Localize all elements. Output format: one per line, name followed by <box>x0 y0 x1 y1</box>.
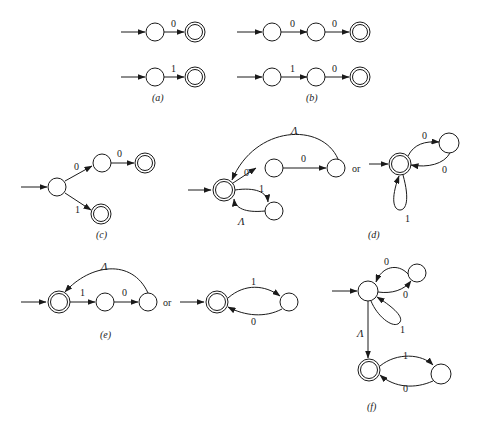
or-separator: or <box>352 163 361 174</box>
edge-label: 0 <box>117 148 122 159</box>
lambda-arrow <box>234 199 265 211</box>
self-loop <box>394 175 407 210</box>
edge-label: 1 <box>259 183 264 194</box>
transition-arrow <box>376 267 408 282</box>
edge-label: 0 <box>122 287 127 298</box>
edge-label: Λ <box>356 327 364 339</box>
edge-label: 1 <box>290 63 295 74</box>
edge-label: 0 <box>301 153 306 164</box>
caption-e: (e) <box>100 329 112 341</box>
edge-label: 0 <box>332 63 337 74</box>
edge-label: 1 <box>405 213 410 224</box>
state <box>265 159 283 177</box>
edge-label: 0 <box>422 130 427 141</box>
accept-state-inner <box>94 207 109 222</box>
state <box>263 68 281 86</box>
edge-label: 1 <box>171 63 176 74</box>
caption-c: (c) <box>96 229 108 241</box>
edge-label: 0 <box>332 18 337 29</box>
caption-b: (b) <box>306 92 318 104</box>
part-e-left: 1 0 Λ or (e) <box>21 260 172 341</box>
edge-label: Λ <box>100 260 108 272</box>
lambda-arc <box>65 269 148 293</box>
state <box>265 202 283 220</box>
edge-label: 0 <box>171 18 176 29</box>
edge-label: 0 <box>74 161 79 172</box>
accept-state-inner <box>51 294 68 311</box>
state <box>358 281 378 301</box>
edge-label: 0 <box>442 164 447 175</box>
automata-figure: 0 1 (a) 0 0 1 0 (b) 0 <box>0 0 491 423</box>
transition-arrow <box>228 307 282 315</box>
state <box>93 154 111 172</box>
accept-state-inner <box>353 70 368 85</box>
self-loop <box>371 297 401 325</box>
caption-f: (f) <box>367 401 377 413</box>
part-a: 0 1 (a) <box>121 18 205 104</box>
accept-state-inner <box>188 25 203 40</box>
caption-a: (a) <box>152 92 164 104</box>
part-c: 0 0 1 (c) <box>21 148 155 241</box>
accept-state-inner <box>188 70 203 85</box>
accept-state-inner <box>361 362 378 379</box>
accept-state-inner <box>392 156 409 173</box>
state <box>280 293 298 311</box>
edge-label: 1 <box>75 204 80 215</box>
edge-label: Λ <box>290 124 298 136</box>
state <box>146 68 164 86</box>
state <box>48 178 66 196</box>
edge-label: 0 <box>384 256 389 267</box>
state <box>263 23 281 41</box>
state <box>307 68 325 86</box>
state <box>439 133 459 153</box>
edge-label: Λ <box>237 215 245 227</box>
accept-state-inner <box>138 156 153 171</box>
edge-label: 1 <box>251 276 256 287</box>
edge-label: 1 <box>80 287 85 298</box>
part-d-right: 0 0 1 (d) <box>368 130 459 241</box>
part-d-left: 0 0 Λ 1 Λ or <box>188 124 361 227</box>
transition-arrow <box>408 142 439 156</box>
state <box>146 23 164 41</box>
edge-label: 0 <box>403 289 408 300</box>
part-e-right: 1 0 <box>180 276 298 327</box>
state <box>96 293 114 311</box>
accept-state-inner <box>216 182 233 199</box>
edge-label: 1 <box>400 324 405 335</box>
edge-label: 1 <box>403 350 408 361</box>
caption-d: (d) <box>368 229 380 241</box>
or-separator: or <box>163 297 172 308</box>
part-b: 0 0 1 0 (b) <box>237 18 370 104</box>
state <box>408 264 426 282</box>
state <box>327 159 345 177</box>
edge-label: 0 <box>290 18 295 29</box>
edge-label: 0 <box>244 167 249 178</box>
state <box>307 23 325 41</box>
accept-state-inner <box>353 25 368 40</box>
state <box>139 293 157 311</box>
part-f: 0 0 1 Λ 1 0 (f) <box>332 256 451 413</box>
edge-label: 0 <box>251 316 256 327</box>
accept-state-inner <box>209 294 226 311</box>
edge-label: 0 <box>403 383 408 394</box>
transition-arrow <box>228 287 280 298</box>
state <box>431 364 451 384</box>
